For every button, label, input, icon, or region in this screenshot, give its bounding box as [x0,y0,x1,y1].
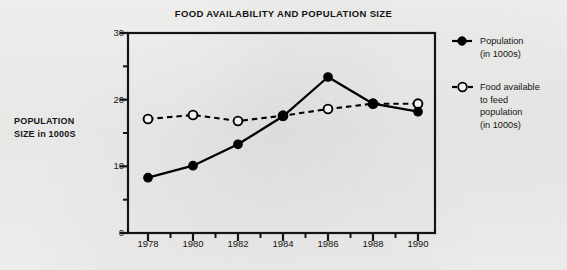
legend-marker-food-available [452,83,473,92]
axis-frame [128,33,435,233]
data-point [414,99,423,108]
data-point [144,173,153,182]
data-point [234,140,243,149]
legend-label-food-line3: population [480,106,540,119]
data-point [414,107,423,116]
legend-label-population-line1: Population [480,35,523,48]
series-population [144,73,423,182]
series-line [148,77,418,178]
data-point [234,117,243,126]
data-point [369,99,378,108]
legend-item-population: Population (in 1000s) [480,35,523,60]
legend-label-food-line4: (in 1000s) [480,119,540,132]
data-point [144,115,153,124]
legend-item-food-available: Food available to feed population (in 10… [480,81,540,131]
legend-marker-population [452,37,472,45]
data-point [324,73,333,82]
legend-label-population-line2: (in 1000s) [480,48,523,61]
data-point [324,105,333,114]
chart-figure: FOOD AVAILABILITY AND POPULATION SIZE PO… [0,0,567,270]
data-point [279,112,288,121]
data-point [189,111,198,120]
data-point [189,161,198,170]
legend-label-food-line1: Food available [480,81,540,94]
legend-label-food-line2: to feed [480,94,540,107]
x-axis-major-ticks [148,233,418,241]
